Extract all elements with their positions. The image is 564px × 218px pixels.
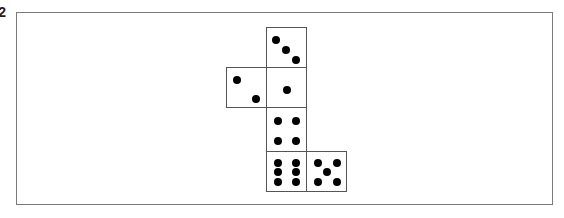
die-face-left <box>226 67 267 108</box>
pip-dot <box>323 168 331 176</box>
pip-dot <box>274 168 282 176</box>
pip-dot <box>233 76 241 84</box>
pip-dot <box>292 137 300 145</box>
pip-dot <box>283 86 291 94</box>
pip-dot <box>314 159 322 167</box>
pip-dot <box>282 46 290 54</box>
pip-dot <box>274 159 282 167</box>
pip-dot <box>333 159 341 167</box>
pip-dot <box>272 36 280 44</box>
pip-dot <box>274 178 282 186</box>
pip-dot <box>292 168 300 176</box>
pip-dot <box>292 178 300 186</box>
pip-dot <box>252 95 260 103</box>
pip-dot <box>333 178 341 186</box>
pip-dot <box>292 117 300 125</box>
die-face-middle-lower <box>266 107 307 152</box>
die-face-top <box>266 27 307 68</box>
pip-dot <box>274 117 282 125</box>
pip-dot <box>292 56 300 64</box>
pip-dot <box>314 178 322 186</box>
figure-label-fragment: 2 <box>0 4 6 20</box>
die-face-bottom <box>266 151 307 192</box>
pip-dot <box>274 137 282 145</box>
pip-dot <box>292 159 300 167</box>
die-face-center <box>266 67 307 108</box>
die-face-bottom-right <box>306 151 347 192</box>
